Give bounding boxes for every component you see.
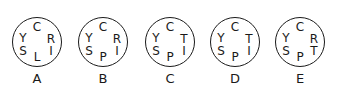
- option-d[interactable]: C Y S P T I D: [203, 0, 269, 90]
- letter-bottom: P: [164, 51, 176, 63]
- letter-bottom: P: [294, 51, 306, 63]
- option-label: E: [294, 72, 306, 85]
- option-e[interactable]: C Y S P R T E: [268, 0, 334, 90]
- letter-top: C: [97, 21, 109, 33]
- letter-top: C: [229, 21, 241, 33]
- letter-top: C: [164, 21, 176, 33]
- letter-upper-left: Y: [280, 32, 292, 44]
- letter-lower-right: I: [45, 45, 57, 57]
- option-c[interactable]: C Y S P T I C: [138, 0, 204, 90]
- option-label: C: [164, 72, 176, 85]
- option-label: B: [97, 72, 109, 85]
- letter-top: C: [294, 21, 306, 33]
- letter-bottom: L: [31, 51, 43, 63]
- letter-top: C: [31, 21, 43, 33]
- letter-lower-right: T: [308, 45, 320, 57]
- option-b[interactable]: C Y S P R I B: [71, 0, 137, 90]
- letter-upper-left: Y: [83, 32, 95, 44]
- letter-lower-right: I: [243, 45, 255, 57]
- letter-lower-left: S: [17, 45, 29, 57]
- option-a[interactable]: C Y S L R I A: [5, 0, 71, 90]
- letter-lower-right: I: [111, 45, 123, 57]
- letter-upper-left: Y: [17, 32, 29, 44]
- letter-bottom: P: [229, 51, 241, 63]
- letter-bottom: P: [97, 51, 109, 63]
- letter-upper-left: Y: [215, 32, 227, 44]
- option-label: A: [31, 72, 43, 85]
- option-label: D: [229, 72, 241, 85]
- letter-lower-left: S: [83, 45, 95, 57]
- letter-lower-left: S: [280, 45, 292, 57]
- letter-upper-left: Y: [150, 32, 162, 44]
- letter-lower-left: S: [215, 45, 227, 57]
- letter-lower-left: S: [150, 45, 162, 57]
- letter-lower-right: I: [178, 45, 190, 57]
